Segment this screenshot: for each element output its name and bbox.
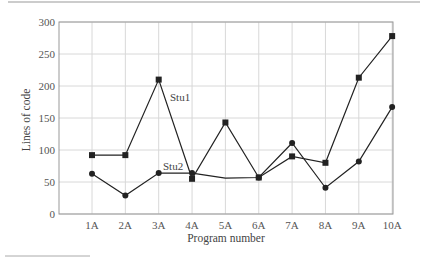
x-tick-label: 8A [319, 219, 333, 231]
x-tick-label: 7A [285, 219, 299, 231]
circle-marker-icon [189, 170, 195, 176]
circle-marker-icon [322, 185, 328, 191]
circle-marker-icon [389, 104, 395, 110]
square-marker-icon [222, 119, 228, 125]
y-tick-label: 200 [39, 80, 56, 92]
circle-marker-icon [256, 175, 262, 181]
x-tick-label: 5A [219, 219, 233, 231]
y-tick-label: 50 [44, 176, 56, 188]
series-line-stu1 [92, 36, 392, 179]
series-label-stu1: Stu1 [170, 91, 190, 103]
square-marker-icon [389, 33, 395, 39]
y-tick-label: 150 [39, 112, 56, 124]
square-marker-icon [356, 75, 362, 81]
x-axis-label: Program number [187, 232, 265, 245]
x-tick-label: 10A [383, 219, 402, 231]
y-tick-label: 250 [39, 48, 56, 60]
x-tick-label: 2A [119, 219, 133, 231]
series-label-stu2: Stu2 [163, 160, 183, 172]
y-tick-label: 0 [50, 208, 56, 220]
circle-marker-icon [89, 171, 95, 177]
circle-marker-icon [122, 192, 128, 198]
square-marker-icon [156, 77, 162, 83]
y-axis-label: Lines of code [20, 89, 32, 152]
circle-marker-icon [289, 140, 295, 146]
circle-marker-icon [356, 159, 362, 165]
x-tick-label: 6A [252, 219, 266, 231]
y-tick-label: 100 [39, 144, 56, 156]
square-marker-icon [289, 153, 295, 159]
square-marker-icon [89, 152, 95, 158]
x-tick-label: 3A [152, 219, 166, 231]
y-axis-ticks: 050100150200250300 [39, 16, 56, 220]
x-tick-label: 1A [85, 219, 99, 231]
line-chart: 050100150200250300 1A2A3A4A5A6A7A8A9A10A… [0, 0, 423, 257]
square-marker-icon [122, 152, 128, 158]
series-layer [89, 33, 395, 198]
square-marker-icon [189, 176, 195, 182]
circle-marker-icon [156, 170, 162, 176]
y-tick-label: 300 [39, 16, 56, 28]
x-axis-ticks: 1A2A3A4A5A6A7A8A9A10A [85, 219, 401, 231]
square-marker-icon [322, 160, 328, 166]
x-tick-label: 4A [185, 219, 199, 231]
x-tick-label: 9A [352, 219, 366, 231]
